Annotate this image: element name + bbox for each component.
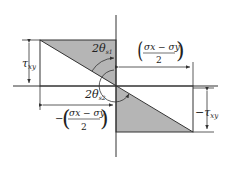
stress-angle-diagram: τxy −τxy 2θs1 2θs2 ( σx − σy 2 ) − ( σx … [0,0,230,170]
half-diff-label: ( σx − σy 2 ) [137,37,184,65]
neg-half-diff-label: − ( σx − σy 2 ) [55,106,109,132]
svg-text:): ) [176,38,185,63]
tau-xy-label: τxy [22,57,37,71]
angle-2theta-s2-label: 2θs2 [84,88,106,101]
svg-text:): ) [100,106,109,131]
svg-text:2: 2 [156,55,162,65]
svg-text:(: ( [137,37,143,62]
svg-text:2: 2 [81,122,87,132]
neg-tau-xy-label: −τxy [195,106,219,120]
